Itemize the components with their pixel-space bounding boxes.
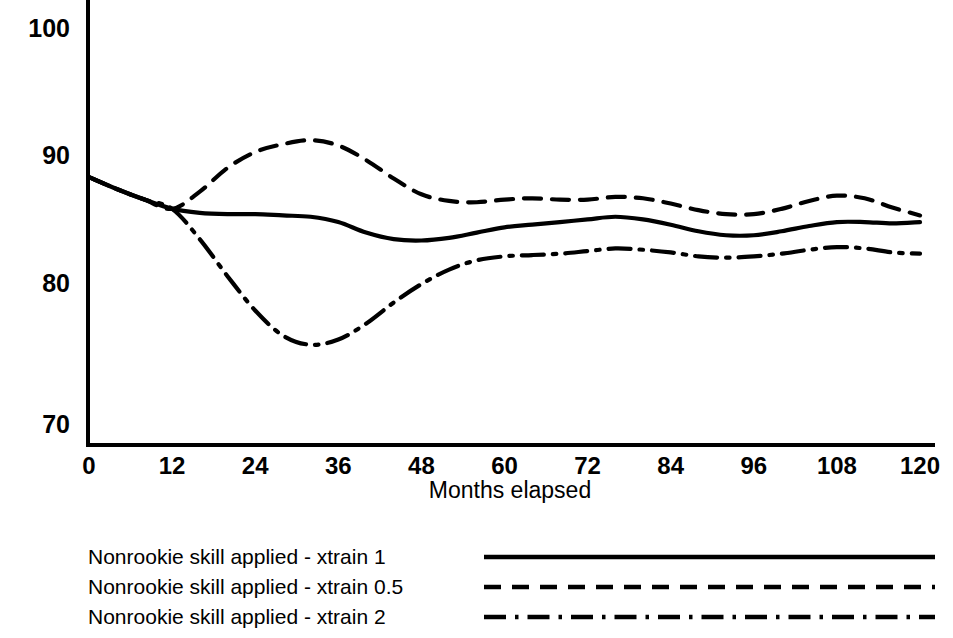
series-group — [89, 140, 920, 345]
x-tick-label: 120 — [900, 452, 940, 479]
x-tick-label: 96 — [740, 452, 767, 479]
legend-label: Nonrookie skill applied - xtrain 2 — [88, 605, 386, 628]
x-tick-label: 60 — [491, 452, 518, 479]
y-tick-label: 100 — [28, 14, 70, 42]
series-line-1 — [89, 177, 920, 240]
legend-label: Nonrookie skill applied - xtrain 0.5 — [88, 575, 403, 598]
series-line-2 — [89, 140, 920, 215]
x-tick-label: 48 — [408, 452, 435, 479]
line-chart: 100 90 80 70 01224364860728496108120 Mon… — [0, 0, 953, 638]
x-tick-label: 108 — [817, 452, 857, 479]
chart-legend: Nonrookie skill applied - xtrain 1Nonroo… — [88, 545, 935, 628]
series-line-3 — [89, 177, 920, 345]
x-tick-label: 36 — [325, 452, 352, 479]
x-axis-tick-labels: 01224364860728496108120 — [82, 452, 940, 479]
y-tick-label: 80 — [42, 269, 70, 297]
legend-label: Nonrookie skill applied - xtrain 1 — [88, 545, 386, 568]
y-tick-label: 70 — [42, 410, 70, 438]
y-axis-tick-labels: 100 90 80 70 — [28, 14, 70, 438]
y-tick-label: 90 — [42, 141, 70, 169]
chart-figure: 100 90 80 70 01224364860728496108120 Mon… — [0, 0, 953, 638]
x-tick-label: 0 — [82, 452, 95, 479]
x-tick-label: 84 — [657, 452, 684, 479]
x-tick-label: 24 — [242, 452, 269, 479]
x-tick-label: 72 — [574, 452, 601, 479]
x-axis-title: Months elapsed — [429, 477, 591, 503]
x-tick-label: 12 — [159, 452, 186, 479]
